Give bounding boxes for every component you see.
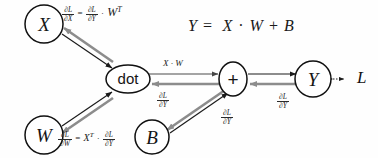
grad-x-rhs-transpose: T <box>117 5 121 14</box>
edge-label-grad-dot-denominator: ∂Y <box>157 101 169 109</box>
grad-w-rhs-transpose: T <box>90 131 94 139</box>
grad-x-lhs-denominator: ∂X <box>62 15 74 23</box>
grad-w-formula: ∂L ∂W = XT · ∂L ∂Y <box>58 131 115 148</box>
main-equation-dot-op: · <box>237 17 245 34</box>
main-equation-equals: = <box>202 17 214 34</box>
edge-plus-to-b-backward <box>167 88 228 130</box>
node-dot[interactable]: dot <box>106 65 150 93</box>
grad-w-rhs-fraction: ∂L ∂Y <box>103 131 115 148</box>
node-plus-label: + <box>227 69 238 90</box>
grad-w-rhs-denominator: ∂Y <box>103 140 115 148</box>
edge-label-grad-b: ∂L ∂Y <box>221 108 233 126</box>
grad-w-lhs-fraction: ∂L ∂W <box>58 131 72 148</box>
computational-graph-diagram: X W B dot + Y L Y = X · W + B <box>0 0 378 158</box>
grad-x-rhs-fraction: ∂L ∂Y <box>86 6 98 23</box>
edge-x-to-dot-forward <box>62 34 112 68</box>
grad-w-lhs-denominator: ∂W <box>58 140 72 148</box>
node-x[interactable]: X <box>25 5 63 43</box>
main-equation-x: X <box>222 17 232 34</box>
edge-label-grad-y: ∂L ∂Y <box>277 92 289 110</box>
edge-label-grad-dot: ∂L ∂Y <box>157 91 169 109</box>
edge-label-grad-dot-fraction: ∂L ∂Y <box>157 92 169 109</box>
node-dot-label: dot <box>118 70 140 87</box>
node-b-label: B <box>146 127 158 148</box>
grad-x-rhs-denominator: ∂Y <box>86 15 98 23</box>
edge-w-to-dot-forward <box>62 92 112 126</box>
edge-label-grad-b-denominator: ∂Y <box>221 118 233 126</box>
edge-label-grad-b-fraction: ∂L ∂Y <box>221 109 233 126</box>
main-equation-plus-op: + <box>268 17 280 34</box>
grad-x-lhs-fraction: ∂L ∂X <box>62 6 74 23</box>
grad-w-dot-op: · <box>96 133 101 143</box>
edge-label-grad-y-fraction: ∂L ∂Y <box>277 93 289 110</box>
main-equation-b: B <box>284 17 294 34</box>
node-y[interactable]: Y <box>295 61 331 97</box>
main-equation: Y = X · W + B <box>188 18 294 34</box>
grad-x-formula: ∂L ∂X = ∂L ∂Y · WT <box>62 6 122 23</box>
edge-dot-to-x-backward <box>64 28 113 62</box>
main-equation-y: Y <box>188 17 197 34</box>
grad-x-equals: = <box>77 8 84 18</box>
grad-x-dot-op: · <box>100 8 105 18</box>
node-b[interactable]: B <box>135 120 169 154</box>
edge-label-grad-y-denominator: ∂Y <box>277 102 289 110</box>
edge-label-forward-xw: X · W <box>163 58 183 68</box>
edge-b-to-plus-forward <box>170 93 228 133</box>
node-plus[interactable]: + <box>219 62 247 96</box>
edge-dot-to-w-backward <box>62 98 113 133</box>
node-w-label: W <box>36 125 54 146</box>
node-x-label: X <box>37 14 51 35</box>
main-equation-w: W <box>250 17 264 34</box>
grad-x-rhs-term: W <box>107 5 117 19</box>
loss-symbol: L <box>357 68 366 88</box>
grad-w-equals: = <box>74 133 81 143</box>
